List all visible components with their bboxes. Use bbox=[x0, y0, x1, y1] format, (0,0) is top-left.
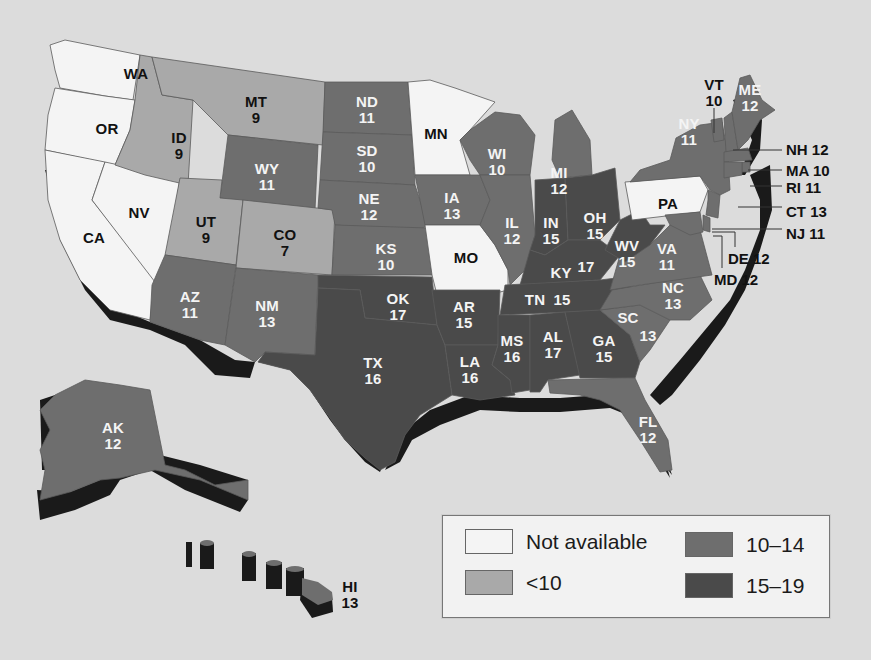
label-CO: CO 7 bbox=[274, 227, 297, 259]
callout-MA: MA 10 bbox=[786, 163, 830, 179]
state-CT[interactable] bbox=[724, 162, 742, 178]
label-NY: NY 11 bbox=[678, 116, 699, 148]
label-OK: OK 17 bbox=[387, 291, 410, 323]
label-WI: WI 10 bbox=[488, 146, 507, 178]
callout-NJ: NJ 11 bbox=[786, 226, 825, 242]
legend-swatch-not-available bbox=[465, 529, 513, 554]
label-AK: AK 12 bbox=[102, 420, 124, 452]
label-KY: KY bbox=[550, 265, 571, 281]
legend-item-10-14: 10–14 bbox=[685, 532, 804, 557]
label-MO: MO bbox=[454, 250, 479, 266]
label-IN: IN 15 bbox=[542, 215, 559, 247]
state-DE[interactable] bbox=[703, 215, 710, 232]
hawaii-islands bbox=[186, 540, 333, 618]
label-TN-value: 15 bbox=[553, 292, 570, 308]
label-OH: OH 15 bbox=[584, 210, 607, 242]
legend-label: Not available bbox=[526, 530, 647, 554]
legend-label: 10–14 bbox=[746, 533, 804, 557]
label-NM: NM 13 bbox=[255, 298, 279, 330]
label-IL: IL 12 bbox=[503, 215, 520, 247]
map-figure: WA OR CA NV ID 9 MT 9 WY 11 UT 9 CO 7 AZ… bbox=[0, 0, 871, 660]
label-NV: NV bbox=[128, 205, 149, 221]
callout-MD: MD 12 bbox=[714, 272, 758, 288]
label-HI: HI 13 bbox=[341, 579, 358, 611]
label-MN: MN bbox=[424, 126, 448, 142]
legend-label: <10 bbox=[526, 571, 562, 595]
callout-RI: RI 11 bbox=[786, 180, 821, 196]
map-legend: Not available <10 10–14 15–19 bbox=[442, 515, 830, 618]
label-IA: IA 13 bbox=[443, 190, 460, 222]
callout-DE: DE 12 bbox=[728, 251, 770, 267]
label-TN: TN bbox=[525, 292, 545, 308]
label-ND: ND 11 bbox=[356, 94, 378, 126]
label-MS: MS 16 bbox=[501, 333, 524, 365]
label-LA: LA 16 bbox=[460, 354, 480, 386]
label-MI: MI 12 bbox=[550, 165, 567, 197]
label-WY: WY 11 bbox=[255, 161, 280, 193]
label-VT: VT 10 bbox=[704, 77, 724, 109]
label-SC: SC bbox=[617, 310, 638, 326]
legend-item-15-19: 15–19 bbox=[685, 573, 804, 598]
legend-label: 15–19 bbox=[746, 574, 804, 598]
label-GA: GA 15 bbox=[593, 333, 616, 365]
legend-item-not-available: Not available bbox=[465, 529, 647, 554]
callout-NH: NH 12 bbox=[786, 142, 829, 158]
label-KY-value: 17 bbox=[577, 259, 594, 275]
label-SC-value: 13 bbox=[639, 328, 656, 344]
legend-swatch-15-19 bbox=[685, 573, 733, 598]
label-MT: MT 9 bbox=[245, 94, 267, 126]
label-FL: FL 12 bbox=[639, 414, 658, 446]
label-PA: PA bbox=[658, 196, 678, 212]
label-UT: UT 9 bbox=[196, 214, 216, 246]
label-WA: WA bbox=[124, 66, 149, 82]
label-SD: SD 10 bbox=[356, 143, 377, 175]
label-CA: CA bbox=[83, 230, 105, 246]
legend-item-lt10: <10 bbox=[465, 570, 562, 595]
label-WV: WV 15 bbox=[615, 238, 640, 270]
legend-swatch-lt10 bbox=[465, 570, 513, 595]
label-OR: OR bbox=[96, 121, 119, 137]
label-AL: AL 17 bbox=[543, 329, 563, 361]
state-NJ[interactable] bbox=[706, 190, 720, 218]
label-ID: ID 9 bbox=[171, 130, 186, 162]
label-VA: VA 11 bbox=[657, 241, 677, 273]
label-NE: NE 12 bbox=[358, 191, 379, 223]
label-AR: AR 15 bbox=[453, 299, 475, 331]
legend-swatch-10-14 bbox=[685, 532, 733, 557]
label-KS: KS 10 bbox=[375, 241, 396, 273]
label-TX: TX 16 bbox=[363, 355, 383, 387]
callout-CT: CT 13 bbox=[786, 204, 827, 220]
label-ME: ME 12 bbox=[739, 82, 762, 114]
label-AZ: AZ 11 bbox=[180, 289, 200, 321]
label-NC: NC 13 bbox=[662, 280, 684, 312]
